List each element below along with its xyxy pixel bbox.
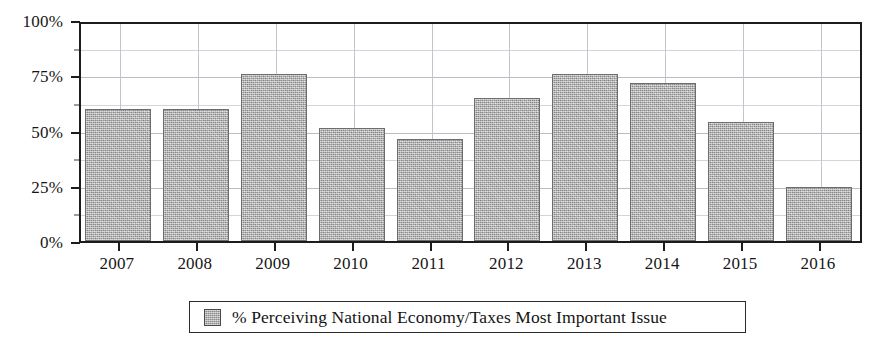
y-tick-label-100: 100% xyxy=(23,12,63,32)
y-tick-label-75: 75% xyxy=(31,67,63,87)
x-tick-label-2012: 2012 xyxy=(489,254,524,274)
x-tick-mark-2012 xyxy=(507,243,509,251)
x-tick-label-2008: 2008 xyxy=(177,254,212,274)
bar-2015 xyxy=(708,122,774,241)
bar-2008 xyxy=(163,109,229,241)
x-tick-label-2011: 2011 xyxy=(411,254,445,274)
bar-2013 xyxy=(552,74,618,241)
x-tick-label-2009: 2009 xyxy=(255,254,290,274)
bar-2007 xyxy=(85,109,151,241)
x-tick-mark-2015 xyxy=(741,243,743,251)
bar-2009 xyxy=(241,74,307,241)
x-tick-mark-2016 xyxy=(819,243,821,251)
x-tick-label-2007: 2007 xyxy=(99,254,134,274)
bar-2012 xyxy=(474,98,540,241)
x-tick-mark-2009 xyxy=(274,243,276,251)
y-axis: 100% 75% 50% 25% 0% xyxy=(0,22,72,243)
legend-label: % Perceiving National Economy/Taxes Most… xyxy=(232,307,667,328)
x-tick-mark-2011 xyxy=(430,243,432,251)
x-tick-mark-2014 xyxy=(663,243,665,251)
bar-chart: 100% 75% 50% 25% 0% xyxy=(0,0,879,352)
x-tick-label-2010: 2010 xyxy=(333,254,368,274)
x-tick-label-2013: 2013 xyxy=(567,254,602,274)
x-tick-mark-2013 xyxy=(585,243,587,251)
x-tick-mark-2008 xyxy=(196,243,198,251)
bar-2010 xyxy=(319,128,385,241)
y-tick-label-25: 25% xyxy=(31,178,63,198)
x-tick-label-2014: 2014 xyxy=(645,254,680,274)
x-tick-label-2015: 2015 xyxy=(723,254,758,274)
legend-swatch-icon xyxy=(204,309,221,326)
x-tick-mark-2010 xyxy=(352,243,354,251)
plot-area xyxy=(79,22,862,243)
y-tick-label-50: 50% xyxy=(31,123,63,143)
chart-legend: % Perceiving National Economy/Taxes Most… xyxy=(189,301,746,333)
plot-inner xyxy=(81,24,860,241)
bar-2016 xyxy=(786,187,852,241)
bar-2011 xyxy=(397,139,463,241)
x-tick-label-2016: 2016 xyxy=(801,254,836,274)
y-tick-label-0: 0% xyxy=(40,233,63,253)
x-tick-mark-2007 xyxy=(118,243,120,251)
bar-2014 xyxy=(630,83,696,241)
